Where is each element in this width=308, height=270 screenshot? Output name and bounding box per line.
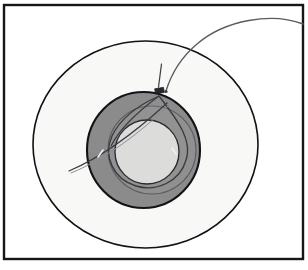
diagram-stage	[0, 0, 308, 270]
light-inner-disc	[115, 120, 179, 184]
dark-rectangular-marker	[155, 87, 165, 94]
leader-endpoint-dot	[164, 90, 167, 93]
diagram-canvas	[0, 0, 308, 270]
